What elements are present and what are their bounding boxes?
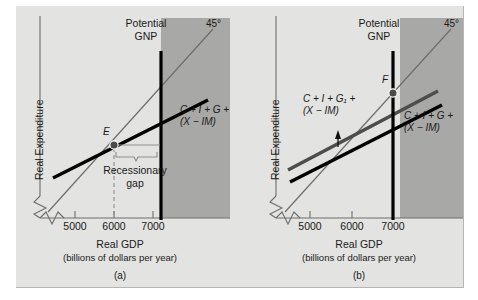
panel-a-gap-label-line2: gap: [126, 178, 144, 190]
economics-figure: Real Expenditure Potential GNP 45° E C +…: [0, 0, 478, 300]
panel-a-potential-gnp-label-line1: Potential: [126, 18, 167, 30]
panel-a-x-axis-label: Real GDP: [96, 239, 143, 251]
panel-a-tick-label-7000: 7000: [141, 221, 164, 233]
panel-a-caption: (a): [114, 270, 126, 281]
panel-b-old-line-label-line1: C + I + G +: [404, 110, 453, 121]
panel-b-degree-label: 45°: [444, 18, 459, 29]
panel-a-tick-label-5000: 5000: [63, 221, 86, 233]
panel-a-gap-brace: [116, 152, 157, 161]
panel-b-caption: (b): [353, 270, 365, 281]
panel-b-equilibrium-point-label: F: [382, 74, 388, 85]
panel-a-expenditure-label-line2: (X − IM): [180, 116, 216, 127]
panel-a-tick-label-6000: 6000: [102, 221, 125, 233]
panel-b-shift-arrow-head: [335, 130, 341, 139]
panel-b-old-line-label-line2: (X − IM): [404, 122, 440, 133]
panel-b-potential-gnp-label-line2: GNP: [368, 31, 391, 43]
panel-b-x-axis-label: Real GDP: [335, 239, 382, 251]
panel-b-y-axis-label: Real Expenditure: [269, 99, 281, 180]
panel-b-new-line-label-line1: C + I + G₁ +: [303, 93, 355, 104]
panel-a-degree-label: 45°: [206, 18, 221, 29]
panel-b-tick-label-6000: 6000: [340, 221, 363, 233]
panel-b-x-axis-sublabel: (billions of dollars per year): [302, 253, 416, 264]
panel-a-y-axis-label: Real Expenditure: [33, 99, 45, 180]
panel-b-new-line-label-line2: (X − IM): [303, 105, 339, 116]
panel-a-x-axis-sublabel: (billions of dollars per year): [63, 253, 177, 264]
panel-b-tick-label-7000: 7000: [381, 221, 404, 233]
panel-b-y-axis-break: [270, 196, 282, 218]
panel-a-equilibrium-marker: [110, 141, 118, 149]
panel-b-equilibrium-marker: [389, 89, 397, 97]
panel-a-equilibrium-point-label: E: [103, 126, 110, 137]
panel-a-y-axis-break: [34, 196, 46, 218]
panel-a-potential-gnp-label-line2: GNP: [135, 31, 158, 43]
panel-b-potential-gnp-label-line1: Potential: [359, 18, 400, 30]
panel-a-expenditure-label-line1: C + I + G +: [180, 104, 229, 115]
panel-a-gap-label-line1: Recessionary: [103, 165, 167, 177]
panel-b-tick-label-5000: 5000: [298, 221, 321, 233]
